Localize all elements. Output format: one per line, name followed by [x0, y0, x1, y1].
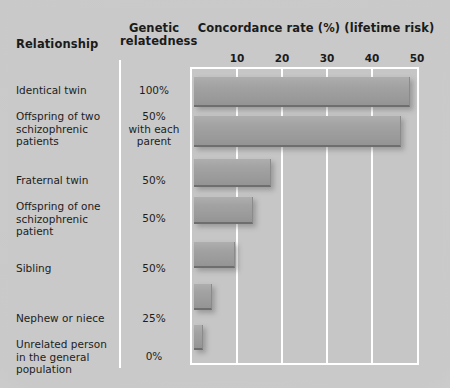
- gridline-30: [326, 69, 328, 363]
- genetic-relatedness-value: 50%: [122, 174, 186, 187]
- x-tick-label-20: 20: [268, 52, 296, 64]
- column-header-relationship: Relationship: [16, 38, 116, 51]
- genetic-relatedness-value: 100%: [122, 84, 186, 97]
- bar: [194, 242, 235, 268]
- row-label: Fraternal twin: [16, 174, 116, 187]
- bar: [194, 159, 271, 187]
- column-header-genetic-relatedness: Genetic relatedness: [120, 22, 188, 48]
- genetic-relatedness-value: 0%: [122, 350, 186, 363]
- bar: [194, 325, 203, 350]
- concordance-rate-figure: Relationship Genetic relatedness Concord…: [0, 0, 450, 388]
- genetic-relatedness-value: 50%: [122, 262, 186, 275]
- row-label: Identical twin: [16, 84, 116, 97]
- x-tick-label-10: 10: [223, 52, 251, 64]
- gridline-20: [281, 69, 283, 363]
- chart-title-concordance-rate: Concordance rate (%) (lifetime risk): [196, 22, 436, 35]
- row-label: Nephew or niece: [16, 312, 116, 325]
- bar: [194, 77, 410, 107]
- x-tick-label-40: 40: [358, 52, 386, 64]
- bar: [194, 197, 253, 224]
- column-divider: [119, 60, 121, 368]
- genetic-relatedness-value: 25%: [122, 312, 186, 325]
- bar-chart-plot-area: [190, 67, 419, 365]
- genetic-relatedness-value: 50%: [122, 212, 186, 225]
- row-label: Unrelated person in the general populati…: [16, 338, 116, 376]
- row-label: Sibling: [16, 262, 116, 275]
- bar: [194, 284, 212, 310]
- x-tick-label-50: 50: [403, 52, 431, 64]
- genetic-relatedness-value: 50% with each parent: [122, 110, 186, 148]
- x-tick-label-30: 30: [313, 52, 341, 64]
- row-label: Offspring of one schizophrenic patient: [16, 200, 116, 238]
- bar: [194, 116, 401, 147]
- row-label: Offspring of two schizophrenic patients: [16, 110, 116, 148]
- gridline-40: [371, 69, 373, 363]
